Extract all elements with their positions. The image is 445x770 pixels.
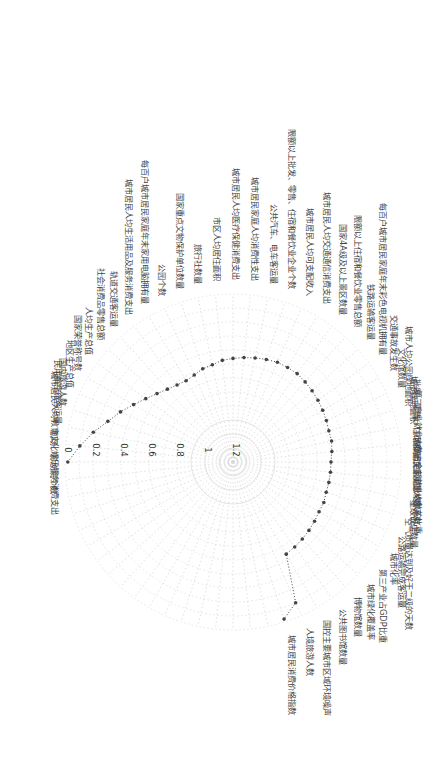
category-label: 社会消费品零售总额 [96,268,106,340]
data-point [286,366,290,370]
category-label: 限额以上住宿和餐饮业零售总额 [353,215,363,327]
category-label: 交通事故发生数 [389,315,399,371]
category-label: 每百户城市居民家庭年末家用电脑拥有量 [140,160,150,304]
axis-tick-label: 0.8 [175,443,185,457]
data-point [175,383,179,387]
data-point [301,537,305,541]
data-point [316,398,320,402]
data-point [313,519,317,523]
data-point [166,387,170,391]
category-label: 城市居民消费价格指数 [287,635,297,715]
data-point [132,403,136,407]
grid-spoke [233,462,285,622]
grid-spoke [134,462,233,598]
data-point [253,356,257,360]
data-point [324,490,328,494]
data-point [155,392,159,396]
grid-spoke [134,326,233,462]
grid-spoke [181,462,233,622]
data-point [329,460,333,464]
grid-spoke [233,394,386,462]
data-point [221,359,225,363]
grid-spoke [97,462,233,561]
category-label: 人均生产总值 [84,307,94,355]
category-label: 城市居民家庭人均消费性支出 [250,177,260,281]
category-label: 国家重点文物保护单位数量 [175,193,185,289]
grid-spoke [108,462,233,574]
data-point [325,419,329,423]
data-point [294,601,298,605]
data-series [66,356,334,621]
grid-spoke [233,410,393,462]
data-point [293,545,297,549]
data-point [317,510,321,514]
radar-chart: 00.20.40.60.811.2 剧场、影剧院个数城市居民人均教育文化娱乐服务… [0,0,445,770]
grid-spoke [233,462,332,598]
category-label: 限额以上批发、零售、住宿和餐饮业企业个数 [287,129,297,289]
category-label: 城市居民人均交通通信消费支出 [322,192,332,304]
axis-tick-label: 0.6 [147,443,157,457]
data-point [231,357,235,361]
grid-spoke [233,350,358,462]
data-point [310,389,314,393]
grid-spoke [233,309,301,462]
axis-tick-label: 1.2 [231,443,241,457]
grid-spoke [181,302,233,462]
grid-spoke [233,302,285,462]
category-label: 第三产业占GDP比重 [378,569,388,643]
category-label: 地区生产总值 [65,340,75,388]
axis-tick-label: 0.4 [119,443,129,457]
data-point [307,529,311,533]
data-point [144,397,148,401]
grid-spoke [233,427,397,462]
category-label: 城市居民人均生活用品及服务消费支出 [124,179,134,315]
data-point [192,373,196,377]
data-point [211,363,215,367]
data-point [321,408,325,412]
grid-spoke [233,462,268,626]
data-point [276,360,280,364]
axis-tick-label: 0 [63,447,73,452]
grid-spoke [233,363,369,462]
data-point [282,617,286,621]
category-label: 公共图书馆数量 [338,609,348,665]
category-label: 公共汽车、电车客运量 [269,204,279,284]
radar-grid [65,294,401,630]
category-label: 国家4A级及以上景区数量 [338,224,348,315]
category-label: 国控主要城市区域环境噪声 [322,620,332,716]
grid-spoke [121,462,233,587]
data-point [322,501,326,505]
grid-spoke [233,462,358,574]
data-point [119,410,123,414]
data-point [303,380,307,384]
data-point [106,420,110,424]
grid-spoke [198,298,233,462]
category-label: 国家荣誉称号数 [73,315,83,371]
category-label: 城市居民人均可支配收入 [305,208,315,296]
category-label: 市区人均居住面积 [212,217,222,281]
category-label: 城市绿化覆盖率 [366,584,376,640]
data-point [295,372,299,376]
data-point [92,431,96,435]
category-label: 每百户城市居民家庭年末彩色电视机拥有量 [378,203,388,355]
data-point [265,358,269,362]
category-label: 轨道交通客运量 [109,271,119,327]
category-label: 城市化率 [389,553,399,585]
category-label: 人境旅游人数 [305,628,315,676]
data-point [66,460,70,464]
data-point [327,481,331,485]
grid-spoke [233,326,332,462]
grid-spoke [69,462,233,497]
category-label: 公园个数 [157,264,167,296]
category-label: 旅行社数量 [193,244,203,284]
grid-spoke [80,462,233,530]
data-point [330,450,334,454]
grid-spoke [165,309,233,462]
category-label: 铁路运输客运量 [366,284,376,340]
data-point [330,439,334,443]
data-point [327,429,331,433]
data-point [284,552,288,556]
grid-spoke [73,462,233,514]
grid-spoke [165,462,233,615]
axis-tick-label: 1 [203,447,213,452]
